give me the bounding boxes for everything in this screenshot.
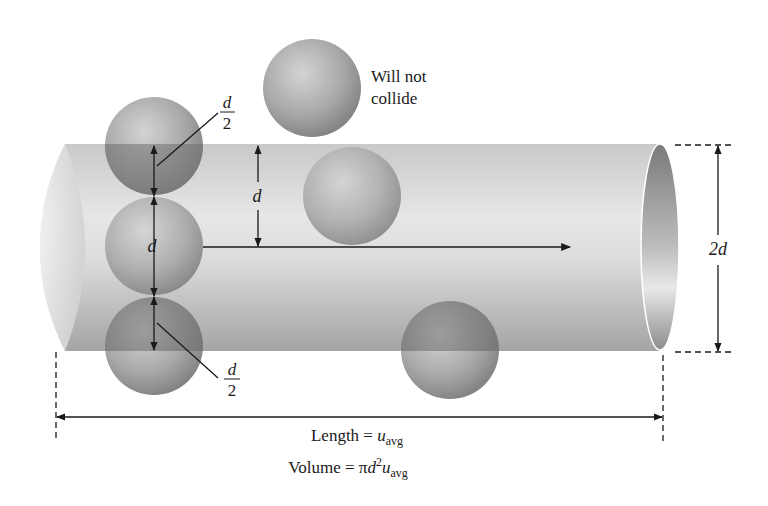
volume-var-u: u (382, 458, 391, 477)
sphere-inside-cylinder (303, 147, 401, 245)
volume-formula: Volume = πd2uavg (288, 455, 408, 480)
half-d-bottom-numerator: d (228, 360, 237, 379)
half-d-top-numerator: d (223, 93, 232, 112)
cylinder-right-end (641, 144, 679, 350)
volume-prefix: Volume = π (288, 458, 368, 477)
length-sub: avg (386, 434, 403, 448)
half-d-bottom-denominator: 2 (228, 381, 237, 400)
length-formula: Length = uavg (311, 426, 403, 448)
diameter-2d-label: 2d (709, 239, 728, 259)
sphere-will-not-collide (263, 39, 361, 137)
half-d-top-denominator: 2 (223, 114, 232, 133)
cylinder-opening (641, 144, 679, 350)
will-not-collide-label-line2: collide (371, 89, 417, 108)
stack-d-label: d (148, 236, 158, 256)
collision-cylinder-diagram: Will not collide d 2 d 2 d d 2d Length =… (0, 0, 768, 506)
radius-d-label: d (253, 186, 263, 206)
volume-sub: avg (390, 466, 407, 480)
length-prefix: Length = (311, 426, 377, 445)
will-not-collide-label-line1: Will not (371, 67, 427, 86)
length-var: u (377, 426, 386, 445)
